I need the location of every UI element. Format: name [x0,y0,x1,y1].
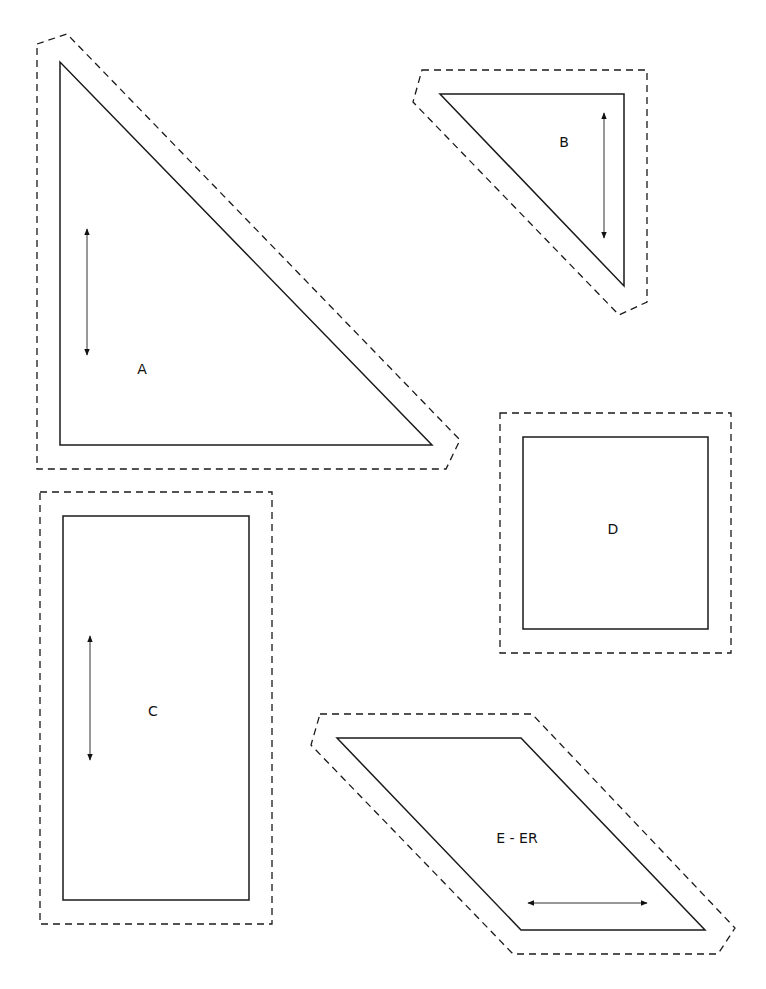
piece-d: D [500,413,731,653]
piece-e: E - ER [311,714,735,954]
piece-label: A [137,361,147,377]
piece-b: B [413,70,647,315]
piece-label: D [608,521,619,537]
piece-label: E - ER [496,830,538,846]
piece-a: A [37,34,460,469]
piece-label: B [559,134,569,150]
sew-line [440,94,624,286]
piece-c: C [40,492,272,924]
sew-line [60,62,432,445]
pattern-sheet: A B C D E - ER [0,0,766,989]
piece-label: C [148,703,158,719]
